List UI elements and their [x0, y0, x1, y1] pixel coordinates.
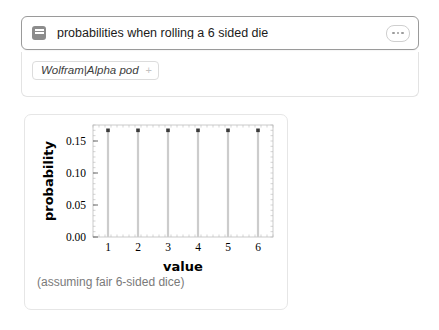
- x-tick-label: 1: [105, 241, 111, 253]
- data-point-marker: [136, 129, 140, 133]
- y-tick-label: 0.05: [66, 199, 86, 211]
- ellipsis-dot: [392, 32, 395, 35]
- x-tick-label: 4: [195, 241, 201, 253]
- pod-tag-label: Wolfram|Alpha pod: [41, 65, 139, 77]
- wolfram-alpha-pod-tag[interactable]: Wolfram|Alpha pod +: [32, 61, 159, 80]
- ellipsis-dot: [401, 32, 404, 35]
- data-point-marker: [226, 129, 230, 133]
- plus-icon[interactable]: +: [146, 65, 152, 76]
- x-tick-label: 6: [255, 241, 261, 253]
- y-tick-label: 0.00: [66, 231, 86, 243]
- x-axis-label: value: [163, 259, 203, 274]
- data-point-marker: [106, 129, 110, 133]
- query-input-bar[interactable]: probabilities when rolling a 6 sided die: [21, 16, 419, 50]
- y-tick-label: 0.15: [66, 135, 86, 147]
- data-point-marker: [196, 129, 200, 133]
- ellipsis-dot: [397, 32, 400, 35]
- query-input-text[interactable]: probabilities when rolling a 6 sided die: [57, 27, 386, 40]
- chart-svg: 0.000.050.100.15123456valueprobability: [25, 115, 289, 275]
- chart-caption: (assuming fair 6-sided dice): [37, 275, 184, 289]
- query-block-icon: [32, 26, 46, 40]
- y-tick-label: 0.10: [66, 167, 86, 179]
- page-root: probabilities when rolling a 6 sided die…: [0, 0, 439, 330]
- data-point-marker: [166, 129, 170, 133]
- x-tick-label: 3: [165, 241, 171, 253]
- data-point-marker: [256, 129, 260, 133]
- pod-panel: Wolfram|Alpha pod +: [21, 52, 419, 97]
- plot-frame: [93, 125, 273, 237]
- ellipsis-icon[interactable]: [386, 25, 410, 42]
- y-axis-label: probability: [41, 140, 56, 221]
- chart-card: 0.000.050.100.15123456valueprobability (…: [24, 114, 288, 310]
- x-tick-label: 5: [225, 241, 231, 253]
- probability-chart: 0.000.050.100.15123456valueprobability: [25, 115, 289, 275]
- x-tick-label: 2: [135, 241, 141, 253]
